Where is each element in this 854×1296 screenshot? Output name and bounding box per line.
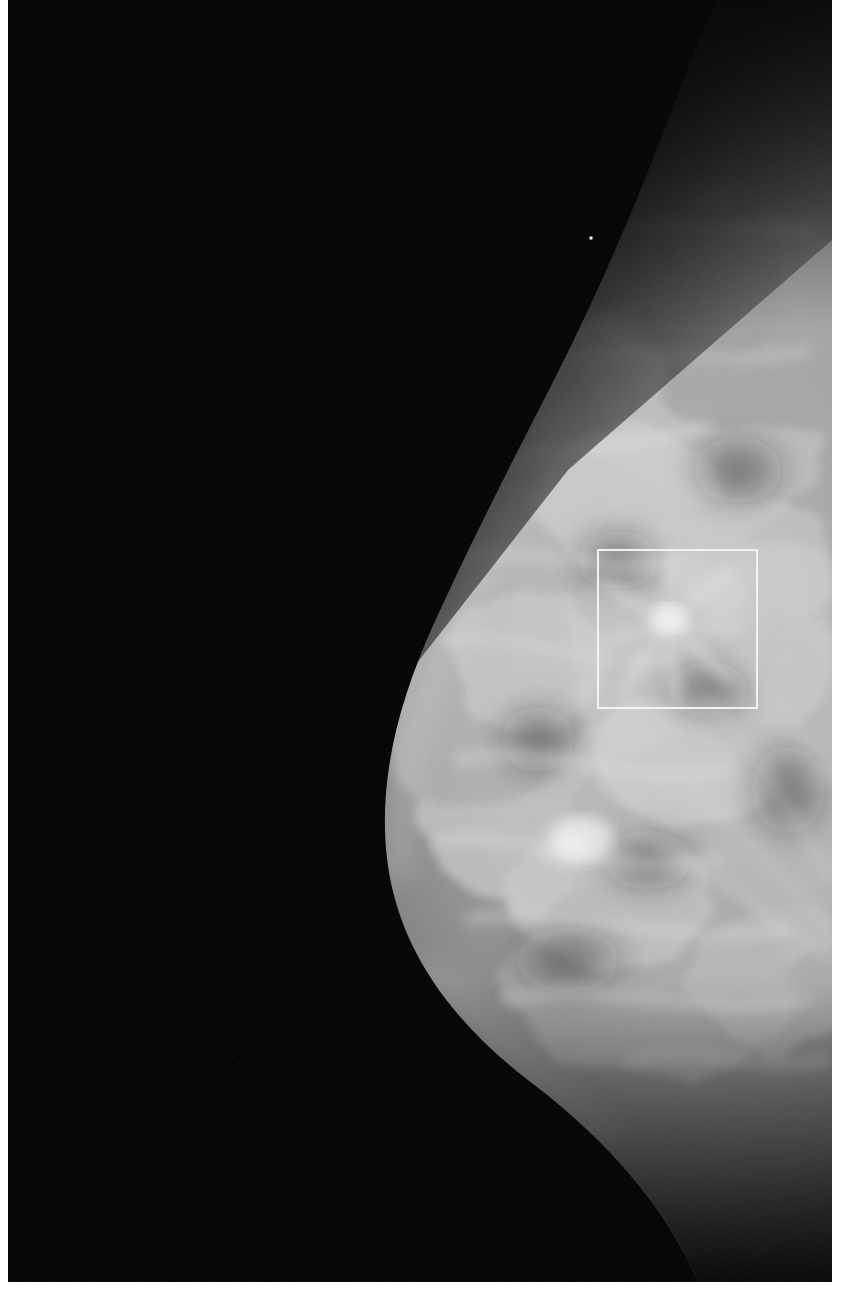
film-margin-right <box>832 0 854 1296</box>
film-margin-bottom <box>0 1282 854 1296</box>
region-of-interest-box[interactable] <box>597 549 758 709</box>
film-margin-left <box>0 0 8 1296</box>
film-plate <box>8 0 832 1282</box>
mammogram-viewer <box>0 0 854 1296</box>
